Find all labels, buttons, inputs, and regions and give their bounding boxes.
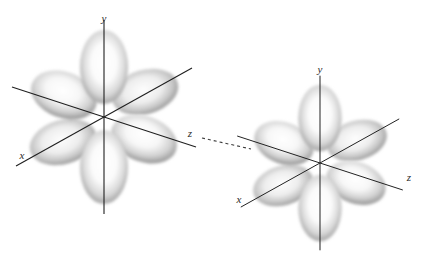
orbital-diagram-canvas: y x z y x z [0, 0, 429, 265]
right-orbital-axis-label-y: y [317, 63, 323, 75]
left-orbital-axis-label-x: x [19, 149, 25, 161]
left-orbital-axis-label-y: y [101, 12, 107, 24]
right-orbital-axis-label-x: x [236, 193, 242, 205]
orbital-diagram-figure: y x z y x z [0, 0, 429, 265]
right-orbital-axis-label-z: z [406, 171, 412, 183]
left-orbital-axis-label-z: z [187, 127, 193, 139]
